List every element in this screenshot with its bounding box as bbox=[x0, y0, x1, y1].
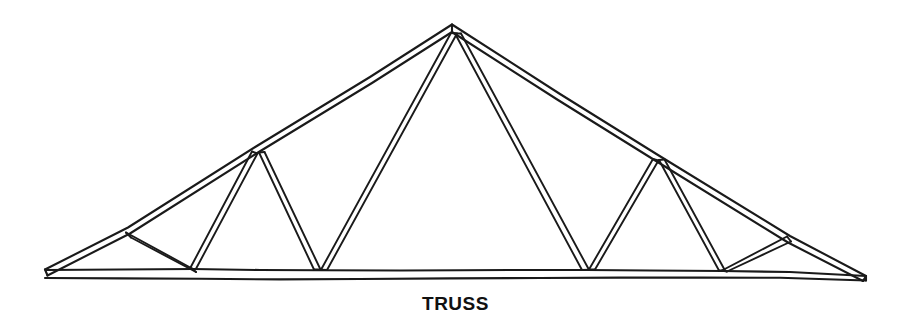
truss-figure-page: TRUSS bbox=[0, 0, 911, 329]
web-diagonal-left-3 bbox=[259, 152, 321, 270]
web-diagonal-right-1 bbox=[722, 237, 791, 272]
web-diagonal-right-3 bbox=[589, 159, 659, 270]
figure-caption: TRUSS bbox=[0, 292, 911, 316]
web-diagonal-center-left bbox=[321, 33, 457, 270]
top-chord-right-member bbox=[452, 25, 866, 282]
truss-drawing bbox=[0, 0, 911, 329]
web-diagonal-left-2 bbox=[190, 152, 258, 269]
top-chord-left-member bbox=[45, 25, 452, 276]
bottom-chord-member bbox=[45, 269, 866, 281]
web-diagonal-left-1 bbox=[126, 233, 196, 273]
